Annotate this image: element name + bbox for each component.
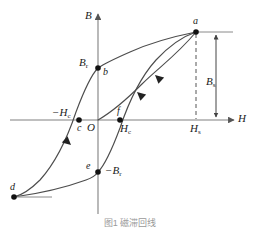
point-marker-d [11,194,17,200]
point-label-d: d [10,182,15,192]
figure-caption: 图1 磁滞回线 [0,216,260,228]
point-marker-a [193,29,199,35]
point-marker-b [95,65,101,71]
br-label: Br [79,57,88,68]
x-axis-label: H [238,113,246,124]
point-label-c: c [77,123,81,133]
neg-br-label-sub: r [119,170,121,178]
bs-label: Bs [206,76,215,87]
y-axis-label: B [85,10,92,21]
br-label-sub: r [86,62,88,70]
neg-hc-label: −Hc [52,107,70,118]
neg-hc-label-base: −H [52,106,67,118]
hc-label-sub: c [128,128,131,136]
br-label-base: B [79,56,86,68]
hc-label: Hc [120,123,131,134]
hc-label-base: H [120,122,128,134]
hs-label: Hs [190,123,201,134]
bs-label-base: B [206,75,213,87]
origin-label: O [87,122,95,133]
hysteresis-figure: H B O a b c d e f Bs Br −Br Hs Hc −Hc 图1… [0,0,260,228]
neg-br-label-base: −B [105,164,119,176]
arrowhead-initial-curve-up [137,92,146,101]
point-label-b: b [103,67,108,77]
neg-br-label: −Br [105,165,122,176]
point-marker-e [95,169,101,175]
point-label-f: f [117,106,120,116]
hs-label-base: H [190,122,198,134]
axis-group [10,14,234,214]
arrowhead-ascending-branch-up [155,75,164,84]
point-label-e: e [86,161,90,171]
point-label-a: a [193,16,198,26]
hs-label-sub: s [198,128,201,136]
hysteresis-loop-diagram [0,0,260,228]
